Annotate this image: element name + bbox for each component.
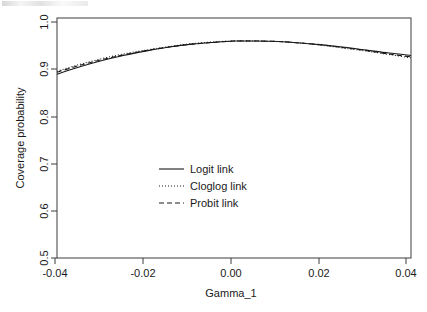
x-axis-title: Gamma_1 [205,287,256,299]
x-tick-label: 0.04 [395,267,416,279]
x-tick-label: 0.02 [308,267,329,279]
plot-background [0,0,427,312]
y-axis-title: Coverage probability [14,87,26,188]
y-tick-label: 1.0 [38,14,50,29]
x-tick-label: -0.04 [42,267,67,279]
coverage-probability-plot: 1.0 0.9 0.8 0.7 0.6 0.5 Coverage probabi… [0,0,427,312]
x-tick-label: -0.02 [130,267,155,279]
legend-label: Cloglog link [190,180,247,192]
legend-label: Logit link [190,163,234,175]
y-tick-label: 0.5 [38,250,50,265]
x-tick-label: 0.00 [220,267,241,279]
y-tick-label: 0.7 [38,156,50,171]
legend-label: Probit link [190,197,239,209]
y-tick-label: 0.8 [38,109,50,124]
y-tick-label: 0.6 [38,203,50,218]
y-tick-label: 0.9 [38,61,50,76]
